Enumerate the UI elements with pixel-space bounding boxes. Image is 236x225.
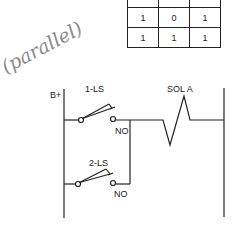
- ladder-diagram: (parallel): [0, 0, 236, 225]
- supply-label: B+: [50, 90, 61, 100]
- solenoid-label: SOL A: [167, 84, 193, 94]
- limit-switch-1-symbol: [64, 104, 116, 123]
- switch-1-label: 1-LS: [85, 84, 104, 94]
- switch-2-contact-label: NO: [114, 189, 128, 199]
- solenoid-a-coil: [116, 96, 225, 145]
- limit-switch-2-symbol: [64, 169, 130, 187]
- handwritten-note: (parallel): [0, 17, 86, 78]
- switch-1-contact-label: NO: [115, 126, 129, 136]
- switch-2-label: 2-LS: [89, 158, 108, 168]
